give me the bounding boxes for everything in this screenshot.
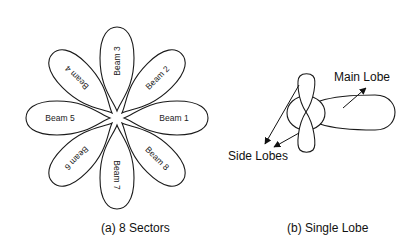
main-lobe-arrow xyxy=(343,88,366,108)
beam-label: Beam 3 xyxy=(112,46,122,76)
caption-b: (b) Single Lobe xyxy=(287,221,369,235)
lower-side-lobe xyxy=(298,112,315,152)
side-lobe-arrow-1 xyxy=(265,85,299,144)
side-lobe-arrow-2 xyxy=(274,133,299,147)
caption-a: (a) 8 Sectors xyxy=(101,221,170,235)
upper-side-lobe xyxy=(298,74,315,112)
diagram-canvas: Beam 1Beam 2Beam 3Beam 4Beam 5Beam 6Beam… xyxy=(0,0,406,246)
beam-label: Beam 1 xyxy=(159,113,189,123)
main-lobe-label: Main Lobe xyxy=(334,70,390,84)
side-lobes-label: Side Lobes xyxy=(228,149,288,163)
single-lobe-diagram: Main Lobe Side Lobes xyxy=(228,70,395,163)
beam-label: Beam 7 xyxy=(112,160,122,190)
eight-sector-diagram: Beam 1Beam 2Beam 3Beam 4Beam 5Beam 6Beam… xyxy=(26,27,208,209)
beam-label: Beam 5 xyxy=(45,113,75,123)
main-lobe xyxy=(320,95,395,130)
